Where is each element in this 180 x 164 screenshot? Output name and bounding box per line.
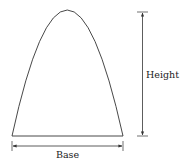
height-label: Height bbox=[146, 69, 179, 80]
base-label: Base bbox=[56, 149, 80, 160]
base-dimension: Base bbox=[12, 141, 123, 160]
parabolic-arch-diagram: Height Base bbox=[0, 0, 180, 164]
height-dimension: Height bbox=[137, 12, 179, 136]
parabola-curve bbox=[12, 10, 123, 136]
